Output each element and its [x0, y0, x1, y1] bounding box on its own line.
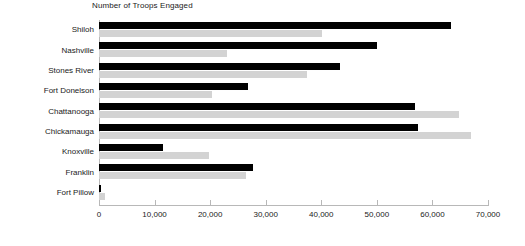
category-label: Fort Pillow	[57, 188, 94, 198]
bar	[99, 172, 246, 179]
bar	[99, 91, 212, 98]
bar	[99, 103, 415, 110]
axis-tick	[266, 200, 267, 206]
axis-tick-label: 10,000	[142, 210, 166, 219]
axis-tick	[321, 200, 322, 206]
axis-tick	[210, 200, 211, 206]
category-label: Shiloh	[72, 25, 94, 35]
category-label: Nashville	[62, 46, 94, 56]
axis-tick-label: 50,000	[365, 210, 389, 219]
bar	[99, 83, 248, 90]
chart-title: Number of Troops Engaged	[92, 1, 193, 10]
axis-tick	[432, 200, 433, 206]
bar	[99, 42, 377, 49]
category-axis-labels: ShilohNashvilleStones RiverFort Donelson…	[0, 20, 94, 203]
category-label: Chickamauga	[45, 127, 94, 137]
category-label: Stones River	[48, 66, 94, 76]
bar	[99, 144, 163, 151]
axis-tick-label: 0	[97, 210, 101, 219]
bar-group	[99, 20, 488, 40]
axis-tick-label: 30,000	[253, 210, 277, 219]
bar	[99, 63, 340, 70]
bar-group	[99, 81, 488, 101]
plot-area	[99, 20, 488, 203]
category-label: Franklin	[66, 168, 94, 178]
bar-group	[99, 162, 488, 182]
category-label: Knoxville	[62, 147, 94, 157]
axis-tick-label: 40,000	[309, 210, 333, 219]
bar	[99, 30, 322, 37]
axis-tick	[155, 200, 156, 206]
category-label: Chattanooga	[48, 107, 94, 117]
axis-tick-label: 60,000	[420, 210, 444, 219]
axis-tick-label: 20,000	[198, 210, 222, 219]
bar	[99, 111, 459, 118]
bar	[99, 164, 253, 171]
axis-tick	[488, 200, 489, 206]
bar	[99, 185, 101, 192]
bar	[99, 152, 209, 159]
bar	[99, 124, 418, 131]
chart-container: Number of Troops Engaged ShilohNashville…	[0, 0, 525, 246]
axis-tick-label: 70,000	[476, 210, 500, 219]
axis-tick	[99, 200, 100, 206]
bar	[99, 132, 471, 139]
bar-group	[99, 101, 488, 121]
bar-group	[99, 142, 488, 162]
bar-group	[99, 40, 488, 60]
bar	[99, 193, 105, 200]
bar-group	[99, 61, 488, 81]
category-label: Fort Donelson	[44, 86, 94, 96]
bar	[99, 50, 227, 57]
bar-group	[99, 183, 488, 203]
bar-group	[99, 122, 488, 142]
value-axis-line	[99, 205, 488, 206]
bar	[99, 22, 451, 29]
axis-tick	[377, 200, 378, 206]
bar	[99, 71, 307, 78]
